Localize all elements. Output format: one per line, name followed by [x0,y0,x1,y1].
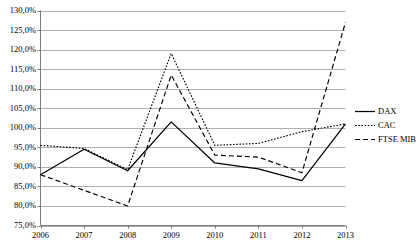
x-axis-tick-label: 2012 [282,231,322,240]
y-axis-tick-label: 80,0% [0,201,36,210]
gridlines [41,12,346,227]
series-line-cac [41,54,346,170]
legend-label-ftse-mib: FTSE MIB [378,135,416,144]
y-axis-tick-label: 120,0% [0,45,36,54]
x-axis-tick-label: 2007 [64,231,104,240]
y-axis-tick-label: 100,0% [0,123,36,132]
data-series-group [41,22,346,206]
x-axis-tick-label: 2013 [326,231,366,240]
x-axis-tick-label: 2009 [151,231,191,240]
y-axis-tick-label: 75,0% [0,221,36,230]
x-axis-tick-label: 2011 [238,231,278,240]
y-axis-tick-label: 105,0% [0,104,36,113]
y-axis-tick-label: 95,0% [0,143,36,152]
y-axis-tick-label: 130,0% [0,6,36,15]
x-axis-tick-label: 2006 [21,231,61,240]
legend-label-dax: DAX [378,107,396,116]
y-axis-tick-label: 125,0% [0,26,36,35]
legend-label-cac: CAC [378,121,395,130]
series-line-ftse-mib [41,22,346,206]
legend-swatches [355,112,375,140]
y-axis-tick-label: 85,0% [0,182,36,191]
y-axis-tick-label: 115,0% [0,65,36,74]
x-axis-tick-label: 2010 [195,231,235,240]
axis-lines [41,11,346,226]
y-axis-tick-label: 110,0% [0,84,36,93]
x-axis-tick-label: 2008 [108,231,148,240]
y-axis-tick-label: 90,0% [0,162,36,171]
